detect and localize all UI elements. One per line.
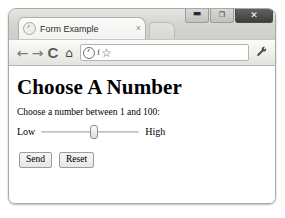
tab-strip: ▬ ❐ ✕ Form Example × — [9, 9, 275, 39]
navigation-toolbar: ← → C ⌂ f ☆ — [9, 39, 275, 66]
form-button-row: Send Reset — [19, 152, 275, 168]
tab-close-icon[interactable]: × — [134, 24, 141, 33]
reload-icon[interactable]: C — [45, 43, 61, 63]
browser-tab[interactable]: Form Example × — [18, 17, 146, 39]
globe-icon — [83, 47, 95, 59]
slider-row: Low High — [17, 125, 275, 139]
browser-window: ▬ ❐ ✕ Form Example × ← → C ⌂ f ☆ — [8, 8, 276, 204]
bookmark-star-icon[interactable]: ☆ — [101, 47, 112, 59]
minimize-button[interactable]: ▬ — [185, 9, 209, 23]
page-title: Choose A Number — [17, 75, 275, 99]
minimize-icon: ▬ — [186, 9, 208, 17]
maximize-button[interactable]: ❐ — [210, 9, 234, 23]
maximize-icon: ❐ — [211, 9, 233, 22]
slider-thumb[interactable] — [90, 125, 98, 139]
tab-title: Form Example — [40, 24, 134, 34]
close-icon: ✕ — [236, 9, 272, 22]
send-button[interactable]: Send — [19, 152, 52, 168]
instruction-label: Choose a number between 1 and 100: — [17, 107, 275, 118]
slider-low-label: Low — [17, 126, 35, 138]
reset-button[interactable]: Reset — [59, 152, 94, 168]
wrench-menu-icon[interactable] — [253, 45, 269, 61]
new-tab-button[interactable] — [149, 22, 175, 40]
slider-high-label: High — [145, 126, 165, 138]
home-icon[interactable]: ⌂ — [61, 43, 77, 63]
page-icon: f — [97, 47, 100, 58]
close-window-button[interactable]: ✕ — [235, 9, 273, 23]
back-arrow-icon[interactable]: ← — [15, 43, 30, 63]
forward-arrow-icon[interactable]: → — [30, 43, 45, 63]
address-bar-input[interactable]: f ☆ — [80, 44, 249, 61]
wrench-icon-svg — [256, 46, 267, 57]
window-controls: ▬ ❐ ✕ — [184, 9, 273, 25]
page-content: Choose A Number Choose a number between … — [9, 66, 275, 203]
tab-favicon-globe-icon — [23, 22, 36, 35]
number-range-slider[interactable] — [41, 125, 139, 139]
